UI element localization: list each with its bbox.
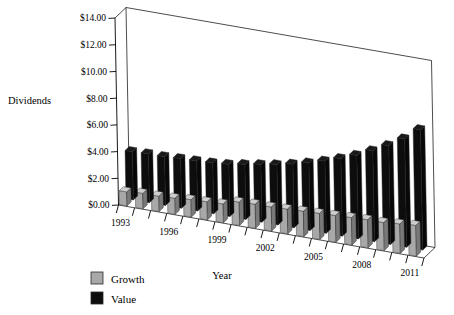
y-tick-label: $6.00: [87, 120, 109, 130]
y-axis: $0.00$2.00$4.00$6.00$8.00$10.00$12.00$14…: [80, 13, 119, 210]
x-tick-label: 2008: [352, 260, 371, 270]
x-tick-label: 2002: [256, 243, 275, 253]
chart-legend: GrowthValue: [91, 272, 145, 305]
x-tick-label: 1993: [111, 218, 130, 228]
y-tick-label: $10.00: [81, 67, 107, 77]
y-tick-label: $4.00: [87, 147, 109, 157]
y-tick-label: $0.00: [88, 200, 110, 210]
x-tick-label: 1996: [159, 227, 178, 237]
dividends-3d-bar-chart: $0.00$2.00$4.00$6.00$8.00$10.00$12.00$14…: [0, 0, 454, 315]
x-axis-title: Year: [212, 270, 232, 281]
legend-label-value: Value: [111, 293, 136, 305]
legend-swatch-growth[interactable]: [91, 272, 103, 284]
chart-canvas: $0.00$2.00$4.00$6.00$8.00$10.00$12.00$14…: [0, 0, 454, 315]
x-tick-label: 2011: [401, 268, 420, 278]
x-tick-label: 1999: [207, 235, 226, 245]
y-tick-label: $12.00: [80, 40, 106, 50]
legend-label-growth: Growth: [111, 273, 145, 285]
x-tick-label: 2005: [304, 252, 323, 262]
y-tick-label: $8.00: [86, 94, 108, 104]
bar-growth: [119, 187, 131, 206]
y-tick-label: $2.00: [88, 174, 110, 184]
y-tick-label: $14.00: [80, 13, 106, 23]
legend-swatch-value[interactable]: [91, 292, 103, 304]
y-axis-title: Dividends: [8, 95, 51, 106]
